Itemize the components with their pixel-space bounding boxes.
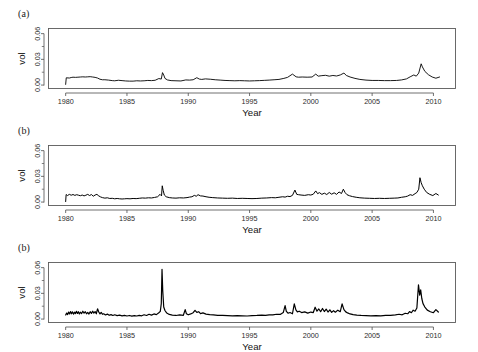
x-tick-label: 2005 <box>364 214 380 223</box>
x-tick-label: 1990 <box>180 331 196 340</box>
x-tick-label: 1990 <box>180 97 196 106</box>
x-axis-title: Year <box>242 107 262 117</box>
series-line <box>66 64 440 85</box>
plot-area: 0.000.030.06vol1980198519901995200020052… <box>0 117 478 234</box>
plot-area: 0.000.030.06vol1980198519901995200020052… <box>0 234 478 351</box>
x-tick-label: 2005 <box>364 331 380 340</box>
y-tick-label: 0.06 <box>33 144 42 158</box>
plot-area: 0.000.030.06vol1980198519901995200020052… <box>0 0 478 117</box>
x-tick-label: 1995 <box>242 214 258 223</box>
x-axis-title: Year <box>242 341 262 351</box>
y-tick-label: 0.00 <box>33 78 42 92</box>
x-tick-label: 2005 <box>364 97 380 106</box>
y-tick-label: 0.06 <box>33 261 42 275</box>
y-tick-label: 0.03 <box>33 52 42 66</box>
x-axis-title: Year <box>242 224 262 234</box>
x-tick-label: 2000 <box>303 97 319 106</box>
x-tick-label: 1995 <box>242 97 258 106</box>
chart-panel: (b)0.000.030.06vol1980198519901995200020… <box>0 234 478 351</box>
x-tick-label: 1995 <box>242 331 258 340</box>
x-tick-label: 2010 <box>425 331 441 340</box>
chart-panel: (a)0.000.030.06vol1980198519901995200020… <box>0 0 478 117</box>
x-tick-label: 2010 <box>425 214 441 223</box>
y-axis-title: vol <box>16 286 27 298</box>
y-tick-label: 0.06 <box>33 27 42 41</box>
x-tick-label: 2000 <box>303 331 319 340</box>
x-tick-label: 1985 <box>119 331 135 340</box>
y-tick-label: 0.03 <box>33 286 42 300</box>
x-tick-label: 1980 <box>58 331 74 340</box>
plot-frame <box>49 29 456 89</box>
y-axis-title: vol <box>16 52 27 64</box>
x-tick-label: 2010 <box>425 97 441 106</box>
x-tick-label: 2000 <box>303 214 319 223</box>
x-tick-label: 1980 <box>58 214 74 223</box>
x-tick-label: 1985 <box>119 97 135 106</box>
plot-frame <box>49 263 456 323</box>
y-tick-label: 0.03 <box>33 169 42 183</box>
x-tick-label: 1990 <box>180 214 196 223</box>
series-line <box>66 178 439 202</box>
figure-root: (a)0.000.030.06vol1980198519901995200020… <box>0 0 478 352</box>
x-tick-label: 1985 <box>119 214 135 223</box>
y-tick-label: 0.00 <box>33 312 42 326</box>
y-axis-title: vol <box>16 169 27 181</box>
x-tick-label: 1980 <box>58 97 74 106</box>
chart-panel: (b)0.000.030.06vol1980198519901995200020… <box>0 117 478 234</box>
y-tick-label: 0.00 <box>33 195 42 209</box>
plot-frame <box>49 146 456 206</box>
series-line <box>66 269 439 316</box>
